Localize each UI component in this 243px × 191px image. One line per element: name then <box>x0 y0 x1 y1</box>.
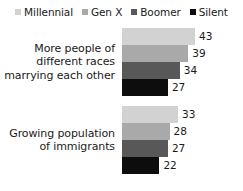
bar-row: 22 <box>122 157 243 174</box>
bar-millennial <box>122 28 195 45</box>
bar-row: 39 <box>122 45 243 62</box>
category-label-line: of immigrants <box>39 140 115 154</box>
bar-group: Growing population of immigrants 33 28 2… <box>0 106 243 174</box>
bar-row: 28 <box>122 123 243 140</box>
bar-value-label: 27 <box>168 143 185 154</box>
bar-boomer <box>122 140 168 157</box>
bar-row: 27 <box>122 140 243 157</box>
bar-row: 27 <box>122 79 243 96</box>
bar-stack: 33 28 27 22 <box>122 106 243 174</box>
category-label: More people of different races marrying … <box>0 28 118 96</box>
legend-label-millennial: Millennial <box>24 7 73 18</box>
bar-stack: 43 39 34 27 <box>122 28 243 96</box>
bar-group: More people of different races marrying … <box>0 28 243 96</box>
category-label-line: Growing population <box>9 127 115 141</box>
bar-row: 43 <box>122 28 243 45</box>
bar-value-label: 34 <box>180 65 197 76</box>
bar-value-label: 27 <box>168 82 185 93</box>
category-label-line: marrying each other <box>4 69 115 83</box>
category-label-line: More people of <box>34 42 115 56</box>
category-label: Growing population of immigrants <box>0 106 118 174</box>
legend-swatch-boomer <box>131 9 137 15</box>
bar-value-label: 28 <box>170 126 187 137</box>
chart-legend: Millennial Gen X Boomer Silent <box>0 4 243 20</box>
bar-silent <box>122 157 159 174</box>
bar-value-label: 33 <box>178 109 195 120</box>
legend-swatch-silent <box>190 9 196 15</box>
bar-row: 34 <box>122 62 243 79</box>
legend-label-gen-x: Gen X <box>91 7 122 18</box>
bar-boomer <box>122 62 180 79</box>
legend-swatch-millennial <box>15 9 21 15</box>
bar-gen-x <box>122 45 188 62</box>
bar-value-label: 39 <box>188 48 205 59</box>
legend-label-boomer: Boomer <box>140 7 180 18</box>
bar-value-label: 22 <box>159 160 176 171</box>
legend-swatch-gen-x <box>82 9 88 15</box>
plot-area: More people of different races marrying … <box>0 22 243 191</box>
legend-item-silent: Silent <box>190 7 228 18</box>
bar-chart: Millennial Gen X Boomer Silent More peop… <box>0 0 243 191</box>
bar-silent <box>122 79 168 96</box>
bar-value-label: 43 <box>195 31 212 42</box>
bar-millennial <box>122 106 178 123</box>
legend-item-gen-x: Gen X <box>82 7 122 18</box>
bar-row: 33 <box>122 106 243 123</box>
legend-item-boomer: Boomer <box>131 7 180 18</box>
bar-gen-x <box>122 123 170 140</box>
category-label-line: different races <box>36 55 115 69</box>
legend-item-millennial: Millennial <box>15 7 73 18</box>
legend-label-silent: Silent <box>199 7 228 18</box>
